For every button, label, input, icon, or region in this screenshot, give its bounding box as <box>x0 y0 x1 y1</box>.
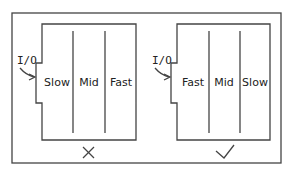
layout-diagram: I/O Slow Mid Fast I/O Fast Mid Slow <box>0 0 291 174</box>
left-zone-3: Fast <box>110 76 133 89</box>
right-zone-1: Fast <box>182 76 205 89</box>
left-zone-2: Mid <box>79 76 99 89</box>
right-panel: I/O Fast Mid Slow <box>152 24 270 158</box>
right-zone-3: Slow <box>242 76 268 89</box>
checkmark-icon <box>216 145 234 158</box>
left-zone-1: Slow <box>44 76 70 89</box>
left-panel: I/O Slow Mid Fast <box>17 24 136 158</box>
cross-icon <box>83 147 94 158</box>
right-io-label: I/O <box>152 54 172 67</box>
left-io-label: I/O <box>17 54 37 67</box>
right-zone-2: Mid <box>214 76 234 89</box>
